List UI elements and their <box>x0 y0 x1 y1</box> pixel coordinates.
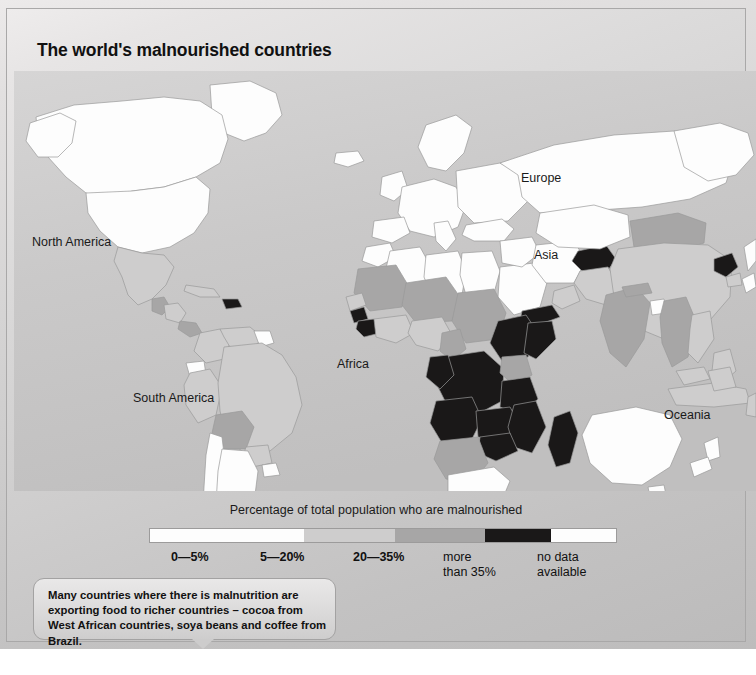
continent-label-asia: Asia <box>534 248 558 262</box>
legend-title: Percentage of total population who are m… <box>7 503 745 517</box>
continent-label-africa: Africa <box>337 357 369 371</box>
continent-label-oceania: Oceania <box>664 408 711 422</box>
legend-label-0: 0—5% <box>171 550 209 565</box>
legend-swatch-2 <box>395 529 486 542</box>
continent-label-south-america: South America <box>133 391 214 405</box>
screenshot-root: The world's malnourished countries <box>0 0 756 675</box>
legend-swatch-3 <box>485 529 550 542</box>
legend-swatch-0 <box>150 529 304 542</box>
legend-label-2: 20—35% <box>353 550 404 565</box>
world-map-svg <box>14 71 756 491</box>
continent-label-north-america: North America <box>32 235 111 249</box>
panel-frame: The world's malnourished countries <box>6 8 746 642</box>
legend-swatch-1 <box>304 529 395 542</box>
continent-label-europe: Europe <box>521 171 561 185</box>
page-title: The world's malnourished countries <box>37 40 332 61</box>
callout-text: Many countries where there is malnutriti… <box>48 588 328 649</box>
world-map: North America South America Africa Europ… <box>14 71 756 491</box>
legend-label-1: 5—20% <box>260 550 304 565</box>
legend-bar <box>149 528 617 543</box>
legend-label-3: more than 35% <box>443 550 496 580</box>
legend-swatch-4 <box>551 529 616 542</box>
country-egypt <box>460 251 500 295</box>
legend-label-4: no data available <box>537 550 586 580</box>
page-background: The world's malnourished countries <box>0 0 756 649</box>
callout-pointer <box>192 639 214 649</box>
callout-box: Many countries where there is malnutriti… <box>33 578 336 640</box>
